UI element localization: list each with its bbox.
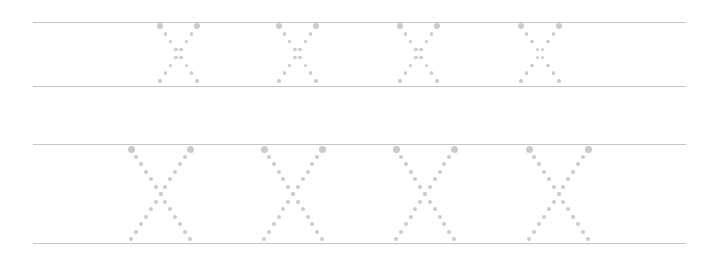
trace-dot (174, 48, 178, 52)
trace-dot (425, 64, 429, 68)
dotted-letter-x (160, 26, 197, 81)
trace-dot (179, 48, 183, 52)
trace-dot (399, 155, 403, 159)
trace-dot (183, 155, 187, 159)
trace-dot (134, 230, 138, 234)
trace-dot (173, 215, 177, 219)
trace-dot (430, 32, 434, 36)
trace-dot (414, 56, 418, 60)
trace-dot (547, 207, 551, 211)
dotted-letter-x (396, 149, 454, 239)
trace-dot (418, 185, 422, 189)
top-guide-line (33, 144, 686, 145)
trace-dot (537, 222, 541, 226)
trace-dot (581, 230, 585, 234)
trace-dot (178, 162, 182, 166)
dotted-letter-x (131, 149, 190, 239)
trace-dot (195, 79, 199, 83)
trace-dot (419, 56, 423, 60)
trace-dot (288, 40, 292, 44)
top-guide-line (33, 22, 686, 23)
trace-dot (283, 71, 287, 75)
trace-dot (286, 200, 290, 204)
trace-dot (286, 185, 290, 189)
trace-dot (442, 222, 446, 226)
trace-dot (409, 215, 413, 219)
trace-dot (530, 64, 534, 68)
start-dot (194, 23, 200, 29)
trace-dot (435, 79, 439, 83)
trace-dot (394, 237, 398, 241)
trace-dot (293, 48, 297, 52)
trace-dot (398, 79, 402, 83)
trace-dot (413, 207, 417, 211)
trace-dot (144, 170, 148, 174)
trace-dot (557, 79, 561, 83)
start-dot (397, 23, 403, 29)
trace-dot (525, 32, 529, 36)
start-dot (157, 23, 163, 29)
trace-dot (399, 230, 403, 234)
trace-dot (552, 71, 556, 75)
trace-dot (546, 64, 550, 68)
trace-dot (190, 71, 194, 75)
start-dot (187, 146, 194, 153)
trace-dot (552, 185, 556, 189)
trace-dot (139, 162, 143, 166)
trace-dot (293, 56, 297, 60)
trace-dot (419, 48, 423, 52)
bottom-guide-line (33, 243, 686, 244)
trace-dot (306, 215, 310, 219)
trace-dot (561, 185, 565, 189)
trace-dot (404, 222, 408, 226)
bottom-guide-line (33, 86, 686, 87)
dotted-letter-x (279, 26, 316, 81)
trace-dot (296, 185, 300, 189)
trace-dot (281, 177, 285, 181)
trace-dot (277, 215, 281, 219)
trace-dot (571, 215, 575, 219)
trace-dot (409, 170, 413, 174)
start-dot (585, 146, 592, 153)
dotted-letter-x (521, 26, 559, 81)
trace-dot (139, 222, 143, 226)
start-dot (518, 23, 524, 29)
trace-dot (525, 71, 529, 75)
trace-dot (163, 200, 167, 204)
trace-dot (404, 162, 408, 166)
trace-dot (438, 170, 442, 174)
trace-dot (537, 162, 541, 166)
trace-dot (438, 215, 442, 219)
trace-dot (527, 237, 531, 241)
trace-dot (178, 222, 182, 226)
trace-dot (149, 177, 153, 181)
trace-dot (576, 222, 580, 226)
trace-dot (173, 170, 177, 174)
trace-dot (304, 40, 308, 44)
trace-dot (159, 192, 163, 196)
trace-dot (164, 71, 168, 75)
trace-dot (314, 79, 318, 83)
trace-dot (188, 237, 192, 241)
start-dot (451, 146, 458, 153)
trace-dot (430, 71, 434, 75)
start-dot (128, 146, 135, 153)
trace-dot (442, 162, 446, 166)
trace-dot (409, 40, 413, 44)
trace-dot (418, 200, 422, 204)
trace-dot (425, 40, 429, 44)
trace-dot (288, 64, 292, 68)
trace-dot (158, 79, 162, 83)
trace-dot (174, 56, 178, 60)
trace-dot (169, 40, 173, 44)
trace-dot (190, 32, 194, 36)
trace-dot (277, 79, 281, 83)
trace-dot (154, 200, 158, 204)
trace-dot (546, 40, 550, 44)
trace-dot (519, 79, 523, 83)
trace-dot (298, 56, 302, 60)
trace-dot (433, 177, 437, 181)
trace-dot (536, 48, 540, 52)
trace-dot (428, 200, 432, 204)
trace-dot (267, 230, 271, 234)
